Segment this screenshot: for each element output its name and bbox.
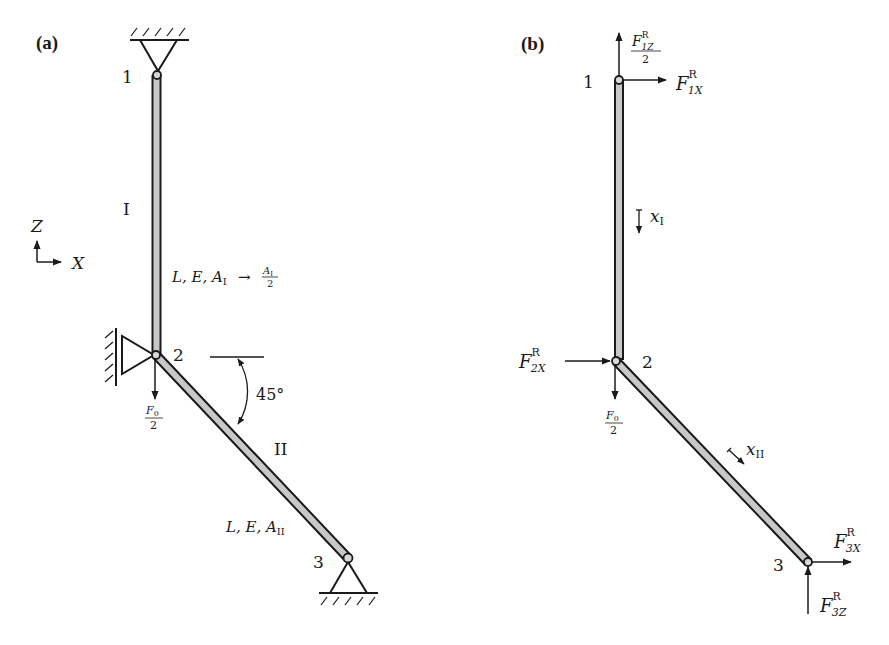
node-1-label: 1 bbox=[122, 67, 133, 87]
reaction-f1x: FR1X bbox=[623, 68, 704, 97]
svg-text:xI: xI bbox=[650, 206, 664, 228]
svg-text:F0: F0 bbox=[605, 409, 619, 423]
svg-text:2: 2 bbox=[610, 424, 617, 437]
panel-a-label: (a) bbox=[36, 32, 58, 54]
svg-text:FR1X: FR1X bbox=[675, 68, 704, 97]
node-2-joint bbox=[152, 351, 160, 359]
svg-text:FR3Z: FR3Z bbox=[819, 590, 847, 619]
node-2-joint bbox=[612, 357, 620, 365]
node-3-joint bbox=[804, 558, 812, 566]
reaction-f3x: FR3X bbox=[812, 526, 862, 562]
pin-support-left-icon bbox=[105, 328, 154, 386]
member-I-label: I bbox=[123, 199, 130, 219]
panel-b-label: (b) bbox=[521, 33, 544, 55]
reaction-f3z: FR3Z bbox=[808, 567, 847, 619]
angle-label: 45° bbox=[256, 385, 284, 404]
node-2-label: 2 bbox=[173, 345, 184, 365]
truss-diagram: (a) bbox=[0, 0, 889, 645]
member-II-label: II bbox=[274, 439, 287, 459]
node-1-label: 1 bbox=[583, 72, 594, 92]
svg-text:L, E, AII: L, E, AII bbox=[225, 518, 285, 537]
svg-text:FR1Z: FR1Z bbox=[631, 30, 654, 52]
member-I-properties: L, E, AI → AI 2 bbox=[171, 265, 278, 289]
svg-text:AI: AI bbox=[262, 265, 273, 278]
svg-text:L, E, AI: L, E, AI bbox=[171, 268, 227, 287]
reaction-f1z: FR1Z 2 bbox=[619, 30, 661, 76]
coord-x-II: xII bbox=[727, 439, 764, 464]
load-f0-half: F0 2 bbox=[605, 364, 623, 437]
node-1-joint bbox=[153, 71, 161, 79]
x-axis-label: X bbox=[70, 253, 85, 273]
node-3-label: 3 bbox=[773, 555, 784, 575]
member-I-freebody bbox=[615, 81, 623, 359]
panel-a: (a) bbox=[30, 28, 378, 605]
node-3-joint bbox=[344, 554, 353, 563]
svg-text:xII: xII bbox=[746, 439, 764, 461]
pin-support-bottom-icon bbox=[319, 562, 378, 605]
z-axis-label: Z bbox=[30, 216, 44, 236]
pin-support-top-icon bbox=[130, 28, 189, 71]
coord-x-I: xI bbox=[636, 206, 664, 233]
svg-text:2: 2 bbox=[267, 278, 273, 289]
node-2-label: 2 bbox=[642, 352, 653, 372]
member-I bbox=[153, 76, 161, 354]
load-f0-half: F0 2 bbox=[145, 358, 163, 432]
panel-b: (b) 1 2 3 FR1Z 2 FR1X xI bbox=[518, 30, 862, 619]
node-3-label: 3 bbox=[313, 552, 324, 572]
svg-text:2: 2 bbox=[642, 53, 649, 66]
svg-text:F0: F0 bbox=[145, 404, 159, 418]
svg-text:→: → bbox=[238, 268, 251, 286]
svg-text:FR2X: FR2X bbox=[518, 346, 547, 375]
member-II-properties: L, E, AII bbox=[225, 518, 285, 537]
coordinate-axes-icon: Z X bbox=[30, 216, 85, 273]
svg-text:FR3X: FR3X bbox=[833, 526, 862, 555]
svg-text:2: 2 bbox=[150, 419, 157, 432]
node-1-joint bbox=[615, 76, 623, 84]
angle-annotation: 45° bbox=[210, 357, 284, 424]
member-II-freebody bbox=[613, 358, 811, 565]
reaction-f2x: FR2X bbox=[518, 346, 610, 375]
